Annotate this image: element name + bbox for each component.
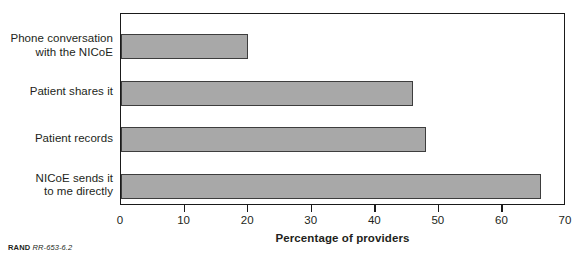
category-label-line: Patient records (0, 132, 113, 146)
x-tick-mark (184, 205, 185, 212)
x-tick-label: 30 (291, 214, 331, 226)
bar (121, 34, 248, 59)
x-tick-label: 10 (164, 214, 204, 226)
category-label: Patient shares it (0, 85, 113, 99)
bar-chart-figure: Phone conversationwith the NICoEPatient … (0, 0, 586, 264)
x-tick-mark (374, 205, 375, 212)
credit-brand: RAND (8, 243, 30, 252)
bar (121, 127, 426, 152)
x-tick-label: 40 (354, 214, 394, 226)
x-tick-label: 50 (418, 214, 458, 226)
x-tick-label: 60 (481, 214, 521, 226)
x-tick-mark (501, 205, 502, 212)
bar (121, 174, 541, 199)
x-tick-label: 0 (100, 214, 140, 226)
category-label-line: to me directly (0, 185, 113, 199)
category-label: NICoE sends itto me directly (0, 172, 113, 199)
category-label: Phone conversationwith the NICoE (0, 32, 113, 59)
figure-credit: RAND RR-653-6.2 (8, 243, 72, 252)
category-label-line: Patient shares it (0, 85, 113, 99)
category-label-line: Phone conversation (0, 32, 113, 46)
x-tick-label: 20 (227, 214, 267, 226)
plot-area (120, 13, 565, 205)
category-label-line: NICoE sends it (0, 172, 113, 186)
x-tick-label: 70 (545, 214, 585, 226)
bar (121, 81, 413, 106)
credit-id: RR-653-6.2 (33, 243, 73, 252)
x-axis-title: Percentage of providers (120, 232, 565, 244)
x-tick-mark (311, 205, 312, 212)
category-label: Patient records (0, 132, 113, 146)
category-label-line: with the NICoE (0, 46, 113, 60)
x-tick-mark (247, 205, 248, 212)
x-tick-mark (438, 205, 439, 212)
